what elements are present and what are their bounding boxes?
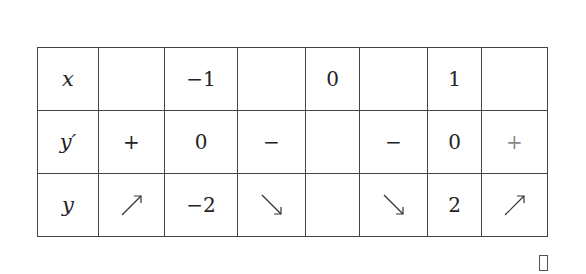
- cell-x-1: [99, 48, 165, 111]
- increasing-arrow-icon: [99, 174, 165, 237]
- function-undefined: [306, 174, 360, 237]
- cell-x-7: [482, 48, 548, 111]
- cell-x-one: 1: [428, 48, 482, 111]
- decreasing-arrow-icon: [238, 174, 306, 237]
- row-label-x: x: [38, 48, 99, 111]
- sign-minus: −: [360, 111, 428, 174]
- derivative-zero: 0: [165, 111, 238, 174]
- cell-x-minus-one: −1: [165, 48, 238, 111]
- cell-x-3: [238, 48, 306, 111]
- sign-plus: +: [99, 111, 165, 174]
- row-x: x −1 0 1: [38, 48, 548, 111]
- increasing-arrow-icon: [482, 174, 548, 237]
- row-derivative: y′ + 0 − − 0 +: [38, 111, 548, 174]
- sign-minus: −: [238, 111, 306, 174]
- row-label-derivative: y′: [38, 111, 99, 174]
- sign-plus: +: [482, 111, 548, 174]
- cell-x-zero: 0: [306, 48, 360, 111]
- local-min-value: −2: [165, 174, 238, 237]
- variation-table: x −1 0 1 y′ + 0 − − 0 + y −2 2: [37, 47, 548, 237]
- row-label-function: y: [38, 174, 99, 237]
- local-max-value: 2: [428, 174, 482, 237]
- derivative-zero: 0: [428, 111, 482, 174]
- end-of-proof-box-icon: [539, 255, 548, 271]
- derivative-undefined: [306, 111, 360, 174]
- row-function: y −2 2: [38, 174, 548, 237]
- decreasing-arrow-icon: [360, 174, 428, 237]
- cell-x-5: [360, 48, 428, 111]
